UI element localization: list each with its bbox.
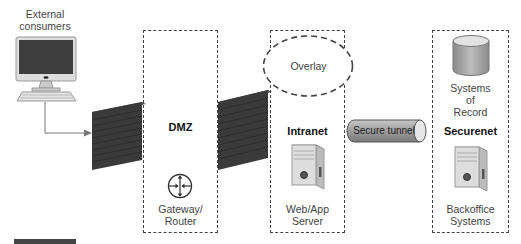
secure-tunnel-label: Secure tunnel — [349, 125, 419, 137]
overlay-label: Overlay — [262, 60, 355, 72]
intranet-title: Intranet — [270, 125, 345, 137]
label-line: Server — [270, 215, 345, 227]
dmz-title: DMZ — [143, 121, 218, 133]
securenet-title: Securenet — [432, 125, 509, 137]
firewall-brick-icon — [218, 90, 274, 172]
backoffice-systems-label: Backoffice Systems — [432, 203, 509, 227]
label-line: Web/App — [270, 203, 345, 215]
decorative-bar — [14, 239, 76, 244]
label-line: Gateway/ — [143, 203, 218, 215]
web-app-server-label: Web/App Server — [270, 203, 345, 227]
label-line: Router — [143, 215, 218, 227]
label-line: of — [432, 94, 509, 106]
server-tower-icon — [290, 141, 326, 191]
firewall-brick-icon — [92, 102, 146, 172]
database-icon — [452, 35, 490, 77]
label-line: Systems — [432, 82, 509, 94]
server-tower-icon — [453, 143, 489, 193]
label-line: Systems — [432, 215, 509, 227]
label-line: Backoffice — [432, 203, 509, 215]
label-line: Record — [432, 106, 509, 118]
gateway-router-label: Gateway/ Router — [143, 203, 218, 227]
systems-of-record-label: Systems of Record — [432, 82, 509, 118]
router-icon — [167, 173, 193, 199]
